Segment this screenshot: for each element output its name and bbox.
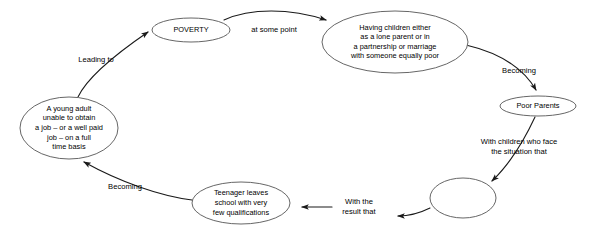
edge-label: With children who facethe situation that <box>481 137 557 156</box>
node-text-line: unable to obtain <box>43 113 96 122</box>
edge-label-line: With the <box>345 197 373 206</box>
diagram-node-poverty[interactable]: POVERTY <box>152 18 230 42</box>
diagram-node-having-children[interactable]: Having children eitheras a lone parent o… <box>322 11 468 73</box>
edge-connector <box>78 32 148 97</box>
node-text-line: POVERTY <box>173 25 208 34</box>
edge-label: Leading to <box>78 55 113 64</box>
edge-label-line: result that <box>342 207 376 216</box>
edge-label-line: Becoming <box>502 66 536 75</box>
diagram-node-teenager-leaves-school[interactable]: Teenager leavesschool with veryfew quali… <box>192 182 290 224</box>
node-text-line: with someone equally poor <box>350 51 439 60</box>
edge-connector <box>398 208 430 216</box>
node-text-line: job – on a full <box>46 133 91 142</box>
node-text-line: as a lone parent or in <box>360 32 429 41</box>
edge-label-line: With children who face <box>481 137 557 146</box>
edge-connector <box>84 162 192 200</box>
diagram-node-poor-parents[interactable]: Poor Parents <box>500 96 576 116</box>
node-ellipse-shape <box>430 178 496 218</box>
node-text-line: Having children either <box>359 23 431 32</box>
edge-label-line: Becoming <box>108 182 142 191</box>
node-text-line: A young adult <box>47 104 92 113</box>
edge-label: at some point <box>251 25 297 34</box>
node-text-line: a partnership or marriage <box>354 42 437 51</box>
node-text-line: school with very <box>215 198 268 207</box>
diagram-canvas: POVERTYHaving children eitheras a lone p… <box>0 0 604 242</box>
diagram-svg: POVERTYHaving children eitheras a lone p… <box>0 0 604 242</box>
node-text-line: Poor Parents <box>516 101 559 110</box>
edge-label-line: Leading to <box>78 55 113 64</box>
nodes-layer: POVERTYHaving children eitheras a lone p… <box>20 11 576 224</box>
node-text-line: few qualifications <box>213 208 270 217</box>
edge-label: With theresult that <box>342 197 376 216</box>
edge-label: Becoming <box>502 66 536 75</box>
edge-label-line: at some point <box>251 25 297 34</box>
diagram-node-empty-node[interactable] <box>430 178 496 218</box>
node-text-line: time basis <box>52 142 86 151</box>
edge-connector <box>224 11 326 20</box>
diagram-node-young-adult[interactable]: A young adultunable to obtaina job – or … <box>20 97 118 159</box>
node-text-line: Teenager leaves <box>214 188 269 197</box>
node-text-line: a job – or a well paid <box>35 123 103 132</box>
edge-label-line: the situation that <box>491 147 548 156</box>
edge-label: Becoming <box>108 182 142 191</box>
